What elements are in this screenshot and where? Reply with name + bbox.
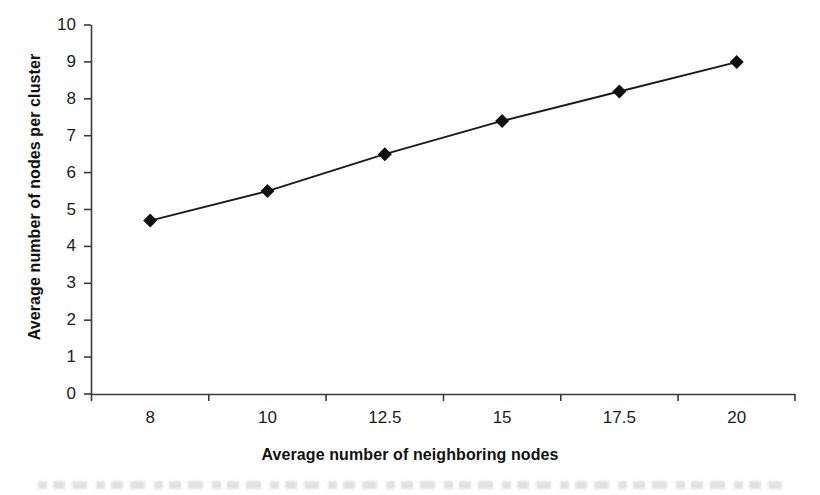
x-tick-label-17-5: 17.5 [603, 408, 636, 428]
x-tick-label-10: 10 [258, 408, 277, 428]
cropped-caption-artifact [38, 481, 782, 489]
data-point-marker [495, 114, 509, 128]
line-chart-figure: 10 9 8 7 6 5 4 3 2 1 0 8 10 12.5 15 17.5… [0, 0, 820, 495]
series-line [150, 62, 737, 221]
data-point-marker [730, 55, 744, 69]
data-point-marker [612, 85, 626, 99]
data-point-marker [143, 214, 157, 228]
y-axis-ticks [84, 25, 91, 394]
data-point-marker [261, 184, 275, 198]
x-tick-label-15: 15 [493, 408, 512, 428]
chart-screenshot: 10 9 8 7 6 5 4 3 2 1 0 8 10 12.5 15 17.5… [0, 0, 820, 495]
x-tick-label-12-5: 12.5 [368, 408, 401, 428]
data-point-marker [378, 147, 392, 161]
x-axis-title: Average number of neighboring nodes [0, 446, 820, 464]
plot-area [0, 0, 820, 495]
y-axis-title: Average number of nodes per cluster [26, 0, 52, 394]
x-tick-label-20: 20 [727, 408, 746, 428]
series-markers [143, 55, 744, 228]
x-tick-label-8: 8 [145, 408, 154, 428]
